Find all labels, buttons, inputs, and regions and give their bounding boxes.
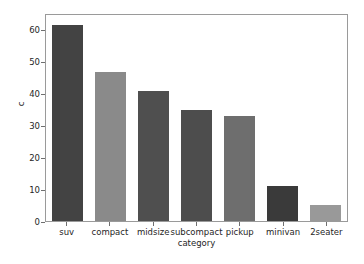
- y-axis-tick-mark: [41, 30, 45, 31]
- y-axis-tick-label: 60: [0, 24, 40, 36]
- y-axis-tick-mark: [41, 222, 45, 223]
- x-axis-tick-mark: [239, 222, 240, 226]
- x-axis-label: category: [45, 238, 348, 249]
- bar-2seater[interactable]: [310, 205, 341, 221]
- bar-compact[interactable]: [95, 72, 126, 221]
- bar-group: [46, 15, 347, 221]
- y-axis-tick-mark: [41, 190, 45, 191]
- y-axis-tick-label: 50: [0, 56, 40, 68]
- bar-subcompact[interactable]: [181, 110, 212, 221]
- y-axis-tick-mark: [41, 62, 45, 63]
- x-axis-tick-mark: [153, 222, 154, 226]
- x-axis-tick-mark: [109, 222, 110, 226]
- y-axis-tick-mark: [41, 158, 45, 159]
- x-axis-tick-label-2seater: 2seater: [293, 227, 360, 238]
- bar-slot: [46, 15, 89, 221]
- y-axis-tick-label: 40: [0, 88, 40, 100]
- y-axis-tick-mark: [41, 94, 45, 95]
- bar-suv[interactable]: [52, 25, 83, 221]
- bar-slot: [304, 15, 347, 221]
- x-axis-tick-mark: [196, 222, 197, 226]
- y-axis-tick-mark: [41, 126, 45, 127]
- bar-slot: [132, 15, 175, 221]
- y-axis-tick-group: 0102030405060: [0, 0, 45, 264]
- y-axis-tick-label: 20: [0, 152, 40, 164]
- x-axis-tick-mark: [326, 222, 327, 226]
- bar-slot: [261, 15, 304, 221]
- bar-midsize[interactable]: [138, 91, 169, 221]
- x-axis-tick-mark: [283, 222, 284, 226]
- bar-pickup[interactable]: [224, 116, 255, 221]
- x-axis-label-text: category: [178, 238, 216, 248]
- bar-slot: [175, 15, 218, 221]
- y-axis-tick-label: 10: [0, 184, 40, 196]
- bar-chart-figure: c 0102030405060 suvcompactmidsizesubcomp…: [0, 0, 364, 264]
- bar-minivan[interactable]: [267, 186, 298, 221]
- plot-area: [45, 14, 348, 222]
- x-axis-tick-mark: [66, 222, 67, 226]
- y-axis-tick-label: 30: [0, 120, 40, 132]
- bar-slot: [89, 15, 132, 221]
- bar-slot: [218, 15, 261, 221]
